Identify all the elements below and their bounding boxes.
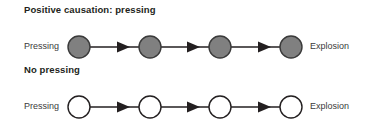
node-3-positive <box>209 36 231 58</box>
causal-chain-figure: Positive causation: pressing Pressing Ex… <box>0 0 377 131</box>
chain-edges-positive <box>90 42 291 53</box>
node-2-positive <box>139 36 161 58</box>
chain-graphic-no-pressing <box>0 92 377 122</box>
node-1-no-pressing <box>68 96 90 118</box>
arrowhead-3-4-no-pressing <box>258 102 271 113</box>
arrowhead-2-3-positive <box>187 42 200 53</box>
section-title-no-pressing: No pressing <box>24 64 80 75</box>
node-3-no-pressing <box>209 96 231 118</box>
arrowhead-3-4-positive <box>258 42 271 53</box>
arrowhead-2-3-no-pressing <box>187 102 200 113</box>
chain-edges-no-pressing <box>90 102 291 113</box>
arrowhead-1-2-positive <box>117 42 130 53</box>
section-title-positive-causation: Positive causation: pressing <box>24 4 156 15</box>
node-2-no-pressing <box>139 96 161 118</box>
node-4-positive <box>280 36 302 58</box>
node-4-no-pressing <box>280 96 302 118</box>
chain-graphic-positive <box>0 32 377 62</box>
chain-row-no-pressing: Pressing Explosion <box>0 92 377 122</box>
chain-row-positive-causation: Pressing Explosion <box>0 32 377 62</box>
node-1-positive <box>68 36 90 58</box>
arrowhead-1-2-no-pressing <box>117 102 130 113</box>
